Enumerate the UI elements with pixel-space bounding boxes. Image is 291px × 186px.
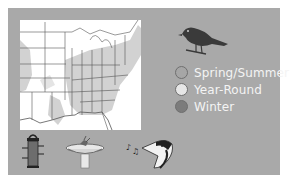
legend-item-year-round: Year-Round [175, 81, 289, 98]
winter-swatch-icon [175, 100, 188, 113]
year-round-swatch-icon [175, 83, 188, 96]
song-notes-bird-head-icon: ♪ ♫ [126, 136, 176, 170]
legend-label: Winter [194, 100, 234, 114]
season-legend: Spring/Summer Year-Round Winter [175, 64, 289, 115]
legend-label: Spring/Summer [194, 66, 289, 80]
perched-bird-icon [178, 22, 234, 58]
legend-item-winter: Winter [175, 98, 289, 115]
legend-item-spring-summer: Spring/Summer [175, 64, 289, 81]
species-range-card: Spring/Summer Year-Round Winter ♪ ♫ [8, 8, 280, 175]
tube-feeder-icon [22, 132, 44, 170]
svg-text:♫: ♫ [132, 147, 139, 156]
birdbath-icon [64, 136, 106, 170]
spring-summer-swatch-icon [175, 66, 188, 79]
svg-text:♪: ♪ [126, 143, 131, 152]
legend-label: Year-Round [194, 83, 262, 97]
range-map-graphic [20, 20, 141, 130]
range-map [20, 20, 141, 130]
